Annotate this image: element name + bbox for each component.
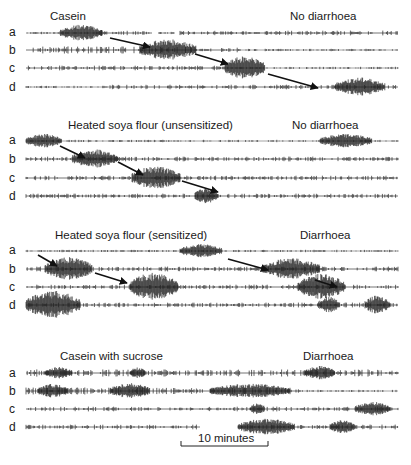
trace-row-a bbox=[26, 366, 398, 379]
row-label-c: c bbox=[9, 280, 15, 294]
migration-arrow bbox=[95, 273, 127, 283]
outcome-label: No diarrhoea bbox=[290, 10, 357, 22]
trace-group bbox=[26, 366, 398, 434]
trace-row-c bbox=[26, 402, 398, 415]
row-label-c: c bbox=[9, 402, 15, 416]
row-label-a: a bbox=[9, 25, 16, 39]
trace-row-d bbox=[26, 291, 398, 318]
scale-bar: 10 minutes bbox=[181, 432, 268, 446]
row-label-c: c bbox=[9, 61, 15, 75]
migration-arrow bbox=[195, 54, 228, 64]
row-label-a: a bbox=[9, 243, 16, 257]
trace-group bbox=[26, 134, 398, 203]
row-label-b: b bbox=[9, 262, 16, 276]
trace-row-b bbox=[26, 150, 398, 168]
panel-heated-soya-sensitized: Heated soya flour (sensitized) Diarrhoea… bbox=[9, 229, 398, 318]
row-label-d: d bbox=[9, 420, 16, 434]
trace-row-b bbox=[26, 257, 398, 280]
migration-arrow bbox=[228, 259, 268, 270]
row-label-b: b bbox=[9, 384, 16, 398]
trace-row-a bbox=[26, 244, 398, 257]
row-label-c: c bbox=[9, 171, 15, 185]
row-label-d: d bbox=[9, 298, 16, 312]
trace-row-b bbox=[26, 40, 398, 60]
trace-row-b bbox=[26, 383, 398, 398]
row-label-b: b bbox=[9, 43, 16, 57]
row-label-b: b bbox=[9, 152, 16, 166]
trace-group bbox=[26, 25, 398, 96]
panel-casein-with-sucrose: Casein with sucrose Diarrhoea a b c d bbox=[9, 350, 398, 434]
trace-row-a bbox=[26, 25, 398, 40]
row-label-a: a bbox=[9, 366, 16, 380]
emg-recording-figure: Casein No diarrhoea a b c d Heated soya … bbox=[0, 0, 411, 465]
migration-arrow bbox=[118, 162, 143, 175]
trace-group bbox=[26, 244, 398, 318]
trace-row-d bbox=[26, 78, 398, 96]
outcome-label: Diarrhoea bbox=[300, 229, 351, 241]
outcome-label: No diarrhoea bbox=[292, 119, 359, 131]
panel-heated-soya-unsensitized: Heated soya flour (unsensitized) No diar… bbox=[9, 119, 398, 203]
scale-bar-label: 10 minutes bbox=[198, 432, 255, 444]
panel-casein: Casein No diarrhoea a b c d bbox=[9, 10, 398, 96]
row-label-a: a bbox=[9, 133, 16, 147]
trace-row-a bbox=[26, 134, 398, 147]
trace-row-c bbox=[26, 273, 398, 300]
panel-title: Casein bbox=[50, 10, 86, 22]
panel-title: Heated soya flour (sensitized) bbox=[55, 229, 207, 241]
outcome-label: Diarrhoea bbox=[303, 350, 354, 362]
migration-arrow bbox=[110, 38, 150, 47]
panel-title: Casein with sucrose bbox=[60, 350, 163, 362]
row-label-d: d bbox=[9, 189, 16, 203]
panel-title: Heated soya flour (unsensitized) bbox=[68, 119, 233, 131]
trace-row-c bbox=[26, 167, 398, 188]
row-label-d: d bbox=[9, 80, 16, 94]
migration-arrow bbox=[268, 74, 318, 88]
